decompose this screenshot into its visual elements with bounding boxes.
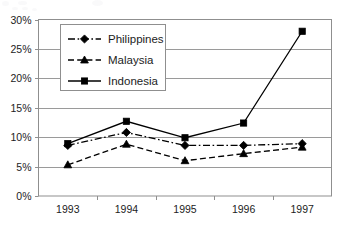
data-point-marker	[182, 135, 188, 141]
scan-artifact	[22, 7, 28, 10]
data-point-marker	[240, 141, 248, 149]
x-axis-tick-label: 1994	[115, 203, 139, 215]
x-axis-tick-label: 1996	[232, 203, 256, 215]
x-axis-tick-label: 1997	[291, 203, 315, 215]
scan-artifact	[2, 1, 9, 6]
data-point-marker	[181, 141, 189, 149]
line-chart: 0%5%10%15%20%25%30% 19931994199519961997…	[0, 0, 349, 230]
data-point-marker	[299, 28, 305, 34]
data-point-marker	[241, 120, 247, 126]
legend-label: Philippines	[108, 33, 164, 45]
x-axis-tick-marks	[98, 196, 274, 200]
y-axis-tick-label: 20%	[10, 72, 31, 84]
chart-canvas: 0%5%10%15%20%25%30% 19931994199519961997…	[0, 0, 349, 230]
data-point-marker	[123, 118, 129, 124]
y-axis-tick-marks	[35, 21, 39, 197]
legend-entries: PhilippinesMalaysiaIndonesia	[68, 33, 164, 87]
scan-artifact	[32, 8, 37, 11]
x-axis-tick-label: 1995	[173, 203, 197, 215]
scan-artifact	[12, 7, 18, 10]
x-axis-labels: 19931994199519961997	[56, 203, 314, 215]
scan-artifact	[18, 1, 27, 5]
data-point-marker	[123, 140, 131, 147]
data-point-marker	[122, 128, 130, 136]
legend-marker-swatch	[81, 78, 87, 84]
chart-legend: PhilippinesMalaysiaIndonesia	[61, 25, 166, 91]
legend-label: Malaysia	[108, 54, 154, 66]
y-axis-tick-label: 15%	[10, 102, 31, 114]
scan-artifact	[92, 0, 103, 6]
x-axis-tick-label: 1993	[56, 203, 80, 215]
y-axis-tick-label: 25%	[10, 43, 31, 55]
y-axis-tick-label: 30%	[10, 14, 31, 26]
y-axis-labels: 0%5%10%15%20%25%30%	[10, 14, 31, 202]
y-axis-tick-label: 0%	[16, 190, 31, 202]
legend-label: Indonesia	[108, 75, 158, 87]
data-point-marker	[65, 141, 71, 147]
y-axis-tick-label: 5%	[16, 161, 31, 173]
y-axis-tick-label: 10%	[10, 131, 31, 143]
